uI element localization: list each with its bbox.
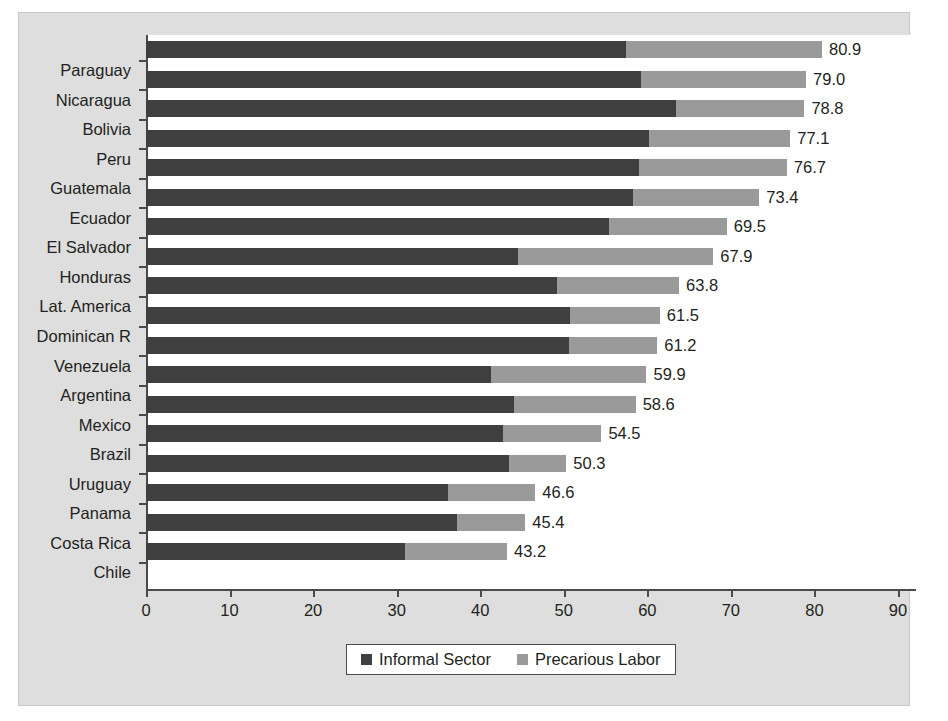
bar-total-label: 73.4 xyxy=(766,187,798,207)
bar-segment-precarious-labor[interactable] xyxy=(570,307,659,324)
y-axis-tick xyxy=(139,503,147,505)
category-label: Lat. America xyxy=(13,298,131,315)
bar-segment-precarious-labor[interactable] xyxy=(491,366,646,383)
bar-total-label: 77.1 xyxy=(797,128,829,148)
y-axis-tick xyxy=(139,385,147,387)
bar-segment-informal-sector[interactable] xyxy=(146,484,448,501)
y-axis-tick xyxy=(139,355,147,357)
bar-segment-informal-sector[interactable] xyxy=(146,189,633,206)
legend-entry[interactable]: Precarious Labor xyxy=(517,650,661,669)
x-axis-tick xyxy=(647,589,649,597)
bar-segment-precarious-labor[interactable] xyxy=(557,277,679,294)
bar-segment-precarious-labor[interactable] xyxy=(569,337,658,354)
bar-total-label: 46.6 xyxy=(542,482,574,502)
y-axis-tick xyxy=(139,207,147,209)
y-axis-tick xyxy=(139,60,147,62)
bar-segment-precarious-labor[interactable] xyxy=(503,425,602,442)
x-axis-tick-label: 70 xyxy=(722,601,740,620)
bar-segment-informal-sector[interactable] xyxy=(146,543,405,560)
bar-segment-precarious-labor[interactable] xyxy=(518,248,714,265)
x-axis-tick-label: 50 xyxy=(555,601,573,620)
bar-segment-informal-sector[interactable] xyxy=(146,366,491,383)
bar-segment-informal-sector[interactable] xyxy=(146,41,626,58)
bar-segment-informal-sector[interactable] xyxy=(146,425,503,442)
y-axis-tick xyxy=(139,148,147,150)
bar-segment-precarious-labor[interactable] xyxy=(405,543,507,560)
x-axis-tick xyxy=(230,589,232,597)
bar-segment-precarious-labor[interactable] xyxy=(641,71,806,88)
x-axis-tick xyxy=(480,589,482,597)
x-axis-tick-label: 0 xyxy=(141,601,150,620)
bar-segment-precarious-labor[interactable] xyxy=(457,514,526,531)
y-axis-tick xyxy=(139,414,147,416)
category-axis-labels: ParaguayNicaraguaBoliviaPeruGuatemalaEcu… xyxy=(19,35,139,589)
y-axis-tick xyxy=(139,266,147,268)
x-axis-tick xyxy=(564,589,566,597)
category-label: Mexico xyxy=(13,417,131,434)
legend-entry[interactable]: Informal Sector xyxy=(361,650,491,669)
bar-total-label: 63.8 xyxy=(686,275,718,295)
bar-segment-precarious-labor[interactable] xyxy=(509,455,567,472)
bar-segment-informal-sector[interactable] xyxy=(146,277,557,294)
category-label: Chile xyxy=(13,564,131,581)
bar-segment-informal-sector[interactable] xyxy=(146,100,676,117)
x-axis-tick xyxy=(814,589,816,597)
x-axis-tick-label: 80 xyxy=(805,601,823,620)
square-swatch-icon xyxy=(517,654,528,665)
chart-legend: Informal SectorPrecarious Labor xyxy=(346,644,676,675)
x-axis-tick-label: 90 xyxy=(889,601,907,620)
x-axis-tick xyxy=(898,589,900,597)
x-axis-tick-label: 20 xyxy=(304,601,322,620)
bar-segment-precarious-labor[interactable] xyxy=(649,130,790,147)
bar-segment-informal-sector[interactable] xyxy=(146,248,518,265)
x-axis-tick xyxy=(146,589,148,597)
category-label: Dominican R xyxy=(13,328,131,345)
bar-segment-informal-sector[interactable] xyxy=(146,337,569,354)
bar-segment-informal-sector[interactable] xyxy=(146,130,649,147)
y-axis-tick xyxy=(139,473,147,475)
bar-total-label: 45.4 xyxy=(532,512,564,532)
bar-segment-informal-sector[interactable] xyxy=(146,307,570,324)
bar-total-label: 78.8 xyxy=(811,98,843,118)
category-label: Venezuela xyxy=(13,358,131,375)
bar-total-label: 61.2 xyxy=(664,335,696,355)
bar-segment-precarious-labor[interactable] xyxy=(633,189,759,206)
category-label: Ecuador xyxy=(13,210,131,227)
y-axis-tick xyxy=(139,237,147,239)
square-swatch-icon xyxy=(361,654,372,665)
category-label: Peru xyxy=(13,151,131,168)
category-label: Guatemala xyxy=(13,180,131,197)
category-label: Paraguay xyxy=(13,62,131,79)
bar-segment-precarious-labor[interactable] xyxy=(626,41,822,58)
bar-segment-precarious-labor[interactable] xyxy=(639,159,787,176)
legend-label: Precarious Labor xyxy=(535,650,661,669)
x-axis-tick xyxy=(313,589,315,597)
bar-segment-informal-sector[interactable] xyxy=(146,514,457,531)
category-label: Costa Rica xyxy=(13,535,131,552)
y-axis-tick xyxy=(139,119,147,121)
bar-segment-precarious-labor[interactable] xyxy=(514,396,636,413)
bar-segment-informal-sector[interactable] xyxy=(146,455,509,472)
x-axis-tick-label: 40 xyxy=(471,601,489,620)
bar-total-label: 59.9 xyxy=(653,364,685,384)
bar-segment-precarious-labor[interactable] xyxy=(676,100,805,117)
category-label: Uruguay xyxy=(13,476,131,493)
bar-total-label: 79.0 xyxy=(813,69,845,89)
bar-total-label: 67.9 xyxy=(720,246,752,266)
category-label: Panama xyxy=(13,505,131,522)
bar-segment-precarious-labor[interactable] xyxy=(448,484,535,501)
bar-total-label: 80.9 xyxy=(829,39,861,59)
bar-segment-informal-sector[interactable] xyxy=(146,218,609,235)
bar-segment-informal-sector[interactable] xyxy=(146,71,641,88)
x-axis-tick xyxy=(397,589,399,597)
x-axis-line xyxy=(146,589,916,591)
x-axis-tick-label: 60 xyxy=(638,601,656,620)
bar-total-label: 58.6 xyxy=(643,394,675,414)
bar-segment-informal-sector[interactable] xyxy=(146,159,639,176)
y-axis-tick xyxy=(139,326,147,328)
x-axis-tick-label: 30 xyxy=(387,601,405,620)
bar-segment-precarious-labor[interactable] xyxy=(609,218,727,235)
bar-total-label: 54.5 xyxy=(608,423,640,443)
bar-segment-informal-sector[interactable] xyxy=(146,396,514,413)
y-axis-tick xyxy=(139,89,147,91)
